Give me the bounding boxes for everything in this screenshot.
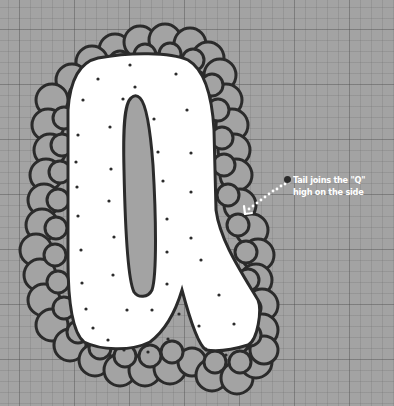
annotation-line-2: high on the side xyxy=(293,186,365,198)
bullet-dot-icon xyxy=(284,176,291,183)
annotation-line-1: Tail joins the "Q" xyxy=(293,174,365,186)
drawing-canvas: Tail joins the "Q" high on the side xyxy=(0,0,394,406)
annotation-text: Tail joins the "Q" high on the side xyxy=(293,174,365,198)
